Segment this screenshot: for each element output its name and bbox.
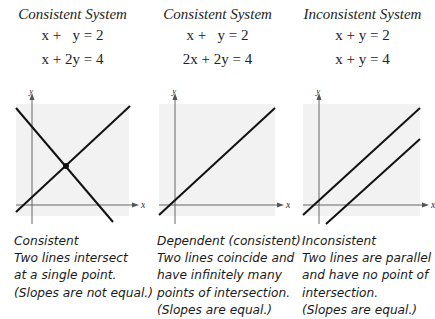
y-axis-label: y [171,90,177,96]
equation-2: x + y = 4 [290,51,435,68]
panel-title: Consistent System [0,6,145,23]
panel-dependent: Consistent System x + y = 2 2x + 2y = 4 … [145,0,290,314]
equation-1: x + y = 2 [290,27,435,44]
equation-2: x + 2y = 4 [0,51,145,68]
intersection-point [63,163,69,169]
panel-title: Inconsistent System [290,6,435,23]
caption: Consistent Two lines intersect at a sing… [14,233,149,302]
panel-title: Consistent System [145,6,290,23]
equation-1: x + y = 2 [145,27,290,44]
graph-coincident-lines: y x [145,90,290,230]
graph-intersecting-lines: y x [0,90,145,230]
x-axis-label: x [430,199,435,210]
caption: Inconsistent Two lines are parallel and … [302,233,435,319]
equation-2: 2x + 2y = 4 [145,51,290,68]
panel-inconsistent: Inconsistent System x + y = 2 x + y = 4 … [290,0,435,314]
panel-consistent: Consistent System x + y = 2 x + 2y = 4 y… [0,0,145,314]
y-axis-label: y [315,90,321,96]
y-axis-label: y [28,90,34,96]
caption: Dependent (consistent) Two lines coincid… [157,233,292,319]
equation-1: x + y = 2 [0,27,145,44]
graph-parallel-lines: y x [290,90,435,230]
